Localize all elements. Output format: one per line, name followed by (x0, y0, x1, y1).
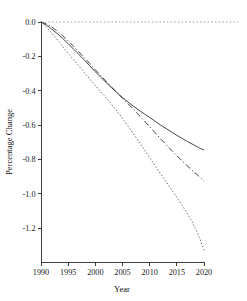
y-tick-label: -0.2 (23, 52, 36, 61)
y-axis-title: Percentage Change (4, 109, 14, 175)
x-tick-label: 2010 (141, 268, 157, 277)
x-axis-ticks: 1990199520002005201020152020 (33, 262, 212, 277)
line-chart: 0.0-0.2-0.4-0.6-0.8-1.0-1.2 199019952000… (0, 0, 247, 301)
y-tick-label: -0.8 (23, 155, 36, 164)
series-solid (41, 22, 204, 150)
y-tick-label: -0.6 (23, 121, 36, 130)
x-axis-title: Year (114, 284, 130, 294)
series-dotted (41, 22, 204, 250)
x-tick-label: 1995 (60, 268, 76, 277)
x-tick-label: 2020 (196, 268, 212, 277)
x-tick-label: 2000 (87, 268, 103, 277)
x-tick-label: 2015 (169, 268, 185, 277)
y-tick-label: -1.0 (23, 190, 36, 199)
x-tick-label: 2005 (114, 268, 130, 277)
axes-frame (41, 22, 204, 262)
series-dashdot (41, 22, 204, 181)
y-axis-ticks: 0.0-0.2-0.4-0.6-0.8-1.0-1.2 (23, 18, 41, 233)
x-tick-label: 1990 (33, 268, 49, 277)
data-series-group (41, 22, 204, 250)
chart-figure: 0.0-0.2-0.4-0.6-0.8-1.0-1.2 199019952000… (0, 0, 247, 301)
y-tick-label: -0.4 (23, 87, 36, 96)
y-tick-label: 0.0 (25, 18, 35, 27)
y-tick-label: -1.2 (23, 224, 36, 233)
